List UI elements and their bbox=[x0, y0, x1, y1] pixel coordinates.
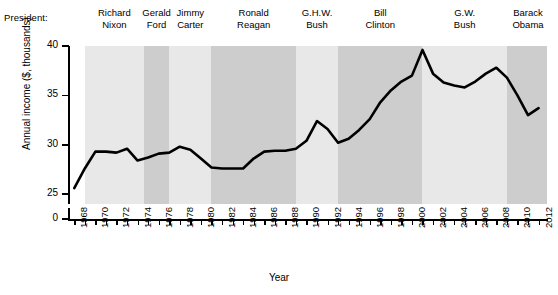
y-axis-tick-label: 0 bbox=[0, 212, 58, 223]
x-axis-tick bbox=[85, 220, 86, 225]
x-axis-tick-label: 2008 bbox=[500, 207, 511, 228]
x-axis-tick-label: 2004 bbox=[458, 207, 469, 228]
x-axis-tick-label: 2002 bbox=[437, 207, 448, 228]
x-axis-tick-label: 1994 bbox=[353, 207, 364, 228]
x-axis-tick bbox=[517, 220, 518, 225]
y-axis-tick bbox=[62, 95, 69, 97]
x-axis-label: Year bbox=[0, 272, 558, 283]
x-axis-tick-label: 2012 bbox=[543, 207, 554, 228]
x-axis-tick bbox=[539, 220, 540, 225]
plot-area bbox=[69, 46, 547, 204]
x-axis-tick-label: 1980 bbox=[205, 207, 216, 228]
president-name-line1: Bill bbox=[340, 7, 420, 19]
x-axis-tick-label: 2000 bbox=[416, 207, 427, 228]
x-axis-tick bbox=[138, 220, 139, 225]
y-axis-tick-label: 25 bbox=[0, 187, 58, 198]
y-axis-tick bbox=[62, 144, 69, 146]
x-axis-tick bbox=[391, 220, 392, 225]
income-line-series bbox=[69, 46, 547, 204]
x-axis-tick bbox=[233, 220, 234, 225]
x-axis-tick-label: 1998 bbox=[395, 207, 406, 228]
president-name-line1: Barack bbox=[488, 7, 558, 19]
x-axis-tick bbox=[106, 220, 107, 225]
x-axis-tick bbox=[422, 220, 423, 225]
x-axis-tick bbox=[222, 220, 223, 225]
x-axis-tick-label: 1996 bbox=[374, 207, 385, 228]
x-axis-tick bbox=[486, 220, 487, 225]
x-axis-tick-label: 1986 bbox=[268, 207, 279, 228]
income-line-path bbox=[74, 50, 538, 188]
president-name-line2: Clinton bbox=[340, 19, 420, 31]
x-axis-tick bbox=[328, 220, 329, 225]
x-axis-tick bbox=[317, 220, 318, 225]
x-axis-tick bbox=[285, 220, 286, 225]
x-axis-tick-label: 1982 bbox=[226, 207, 237, 228]
x-axis-tick bbox=[159, 220, 160, 225]
president-header-row: President: RichardNixonGeraldFordJimmyCa… bbox=[0, 4, 558, 36]
x-axis-tick bbox=[74, 220, 75, 225]
x-axis-tick bbox=[243, 220, 244, 225]
x-axis-tick bbox=[254, 220, 255, 225]
x-axis-tick bbox=[148, 220, 149, 225]
x-axis-tick bbox=[528, 220, 529, 225]
x-axis-tick bbox=[275, 220, 276, 225]
x-axis-tick bbox=[169, 220, 170, 225]
x-axis-tick-label: 1968 bbox=[78, 207, 89, 228]
x-axis-tick bbox=[401, 220, 402, 225]
y-axis-label: Annual income ($, thousands) bbox=[21, 0, 32, 174]
x-axis-tick-label: 2010 bbox=[521, 207, 532, 228]
x-axis-tick bbox=[454, 220, 455, 225]
x-axis-tick bbox=[338, 220, 339, 225]
x-axis-tick bbox=[180, 220, 181, 225]
x-axis-tick bbox=[465, 220, 466, 225]
x-axis-tick bbox=[127, 220, 128, 225]
x-axis-tick bbox=[116, 220, 117, 225]
x-axis-tick bbox=[190, 220, 191, 225]
x-axis-tick bbox=[475, 220, 476, 225]
y-axis-line bbox=[68, 46, 70, 204]
x-axis-tick-label: 2006 bbox=[479, 207, 490, 228]
president-label: BarackObama bbox=[488, 7, 558, 30]
x-axis-tick bbox=[95, 220, 96, 225]
x-axis-tick-label: 1992 bbox=[332, 207, 343, 228]
x-axis-tick-label: 1970 bbox=[99, 207, 110, 228]
x-axis-tick bbox=[433, 220, 434, 225]
x-axis-tick bbox=[496, 220, 497, 225]
x-axis-tick bbox=[412, 220, 413, 225]
x-axis-tick bbox=[444, 220, 445, 225]
x-axis-tick bbox=[306, 220, 307, 225]
x-axis-tick bbox=[370, 220, 371, 225]
income-by-president-chart: President: RichardNixonGeraldFordJimmyCa… bbox=[0, 0, 558, 295]
x-axis-tick bbox=[359, 220, 360, 225]
y-axis-tick bbox=[62, 45, 69, 47]
x-axis-tick-label: 1984 bbox=[247, 207, 258, 228]
x-axis-tick-label: 1988 bbox=[289, 207, 300, 228]
x-axis-tick-label: 1978 bbox=[184, 207, 195, 228]
x-axis-tick bbox=[296, 220, 297, 225]
x-axis-tick-label: 1976 bbox=[163, 207, 174, 228]
president-name-line2: Obama bbox=[488, 19, 558, 31]
x-axis-tick bbox=[349, 220, 350, 225]
x-axis-tick-label: 1974 bbox=[142, 207, 153, 228]
x-axis-tick bbox=[380, 220, 381, 225]
x-axis-tick bbox=[507, 220, 508, 225]
x-axis-tick bbox=[211, 220, 212, 225]
y-axis-tick bbox=[62, 193, 69, 195]
x-axis-tick-label: 1990 bbox=[310, 207, 321, 228]
y-axis-tick bbox=[62, 218, 69, 220]
x-axis-tick-label: 1972 bbox=[120, 207, 131, 228]
x-axis-tick bbox=[264, 220, 265, 225]
x-axis-tick bbox=[201, 220, 202, 225]
president-label: BillClinton bbox=[340, 7, 420, 30]
